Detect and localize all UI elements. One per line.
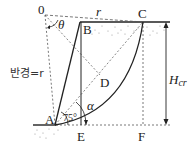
label-B: B	[83, 22, 92, 37]
alpha-arrow	[84, 120, 88, 125]
label-O: 0	[38, 2, 45, 17]
label-radius-side: 반경=r	[10, 67, 44, 80]
arrowhead-bottom	[164, 119, 169, 125]
label-75-degree: 75°	[63, 112, 77, 123]
arrowhead-top	[164, 22, 169, 28]
line-A-C	[55, 22, 143, 125]
soil-texture-bottom	[34, 128, 58, 138]
label-r-top: r	[96, 4, 102, 19]
slope-face-A-B	[55, 22, 80, 125]
label-D: D	[100, 75, 109, 90]
label-H-cr: Hcr	[168, 72, 187, 88]
label-C: C	[138, 6, 147, 21]
soil-texture-top	[87, 25, 164, 35]
slope-diagram: 0 r C B θ 반경=r D Hcr 75° α A E F	[0, 0, 189, 148]
label-E: E	[77, 129, 85, 144]
label-alpha: α	[87, 98, 95, 113]
line-O-A	[45, 15, 55, 125]
label-F: F	[138, 129, 145, 144]
label-theta: θ	[58, 17, 65, 32]
label-A: A	[45, 112, 55, 127]
theta-arrow	[47, 25, 50, 29]
line-O-D	[45, 15, 100, 75]
